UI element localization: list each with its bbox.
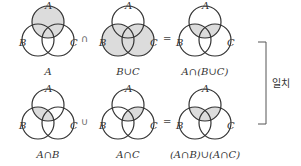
label-c: C: [227, 120, 235, 131]
venn-(AnB)u(AnC): ABC(A∩B)∪(A∩C): [170, 83, 240, 160]
venn-BuC: ABCB∪C: [98, 0, 158, 77]
label-b: B: [175, 37, 183, 48]
label-b: B: [18, 120, 26, 131]
caption: A: [43, 66, 51, 77]
label-c: C: [227, 37, 235, 48]
label-a: A: [44, 0, 52, 11]
caption: B∪C: [115, 66, 140, 77]
match-label: 일치: [272, 78, 290, 89]
label-c: C: [70, 120, 78, 131]
venn-An(BuC): ABCA∩(B∪C): [175, 0, 235, 77]
label-a: A: [124, 83, 132, 94]
bracket: [258, 42, 266, 124]
label-b: B: [98, 37, 106, 48]
label-c: C: [70, 37, 78, 48]
caption: A∩C: [115, 149, 140, 160]
label-a: A: [44, 83, 52, 94]
label-b: B: [175, 120, 183, 131]
label-a: A: [201, 0, 209, 11]
label-b: B: [18, 37, 26, 48]
venn-AnC: ABCA∩C: [98, 83, 158, 160]
label-a: A: [201, 83, 209, 94]
union-operator: ∪: [81, 116, 88, 127]
caption: A∩(B∪C): [181, 66, 229, 77]
label-a: A: [124, 0, 132, 11]
intersect-operator: ∩: [81, 33, 88, 44]
venn-A: ABCA: [18, 0, 78, 77]
equals-operator: =: [163, 33, 171, 44]
label-c: C: [150, 37, 158, 48]
caption: A∩B: [36, 149, 60, 160]
venn-diagram-figure: ABCAABCB∪CABCA∩(B∪C)ABCA∩BABCA∩CABC(A∩B)…: [0, 0, 301, 166]
caption: (A∩B)∪(A∩C): [170, 149, 240, 160]
equals-operator: =: [163, 116, 171, 127]
label-c: C: [150, 120, 158, 131]
label-b: B: [98, 120, 106, 131]
venn-AnB: ABCA∩B: [18, 83, 78, 160]
